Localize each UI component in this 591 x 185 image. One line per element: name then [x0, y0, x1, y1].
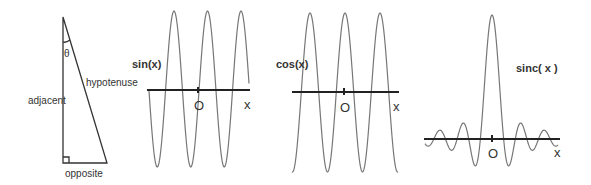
cos-origin-label: O: [340, 100, 350, 115]
cos-axis-label: x: [393, 99, 400, 114]
right-angle-marker: [63, 157, 69, 163]
right-triangle: θ hypotenuse adjacent opposite: [28, 17, 138, 179]
triangle-shape: [63, 17, 107, 163]
adjacent-label: adjacent: [28, 95, 66, 106]
sinc-plot: sinc( x ) O x: [424, 15, 561, 166]
sinc-origin-label: O: [488, 146, 498, 161]
opposite-label: opposite: [65, 168, 103, 179]
sin-axis-label: x: [244, 97, 251, 112]
trig-functions-diagram: θ hypotenuse adjacent opposite sin(x) O …: [0, 0, 591, 185]
sinc-curve: [425, 15, 558, 166]
hypotenuse-label: hypotenuse: [86, 77, 138, 88]
theta-label: θ: [64, 48, 70, 59]
cos-label: cos(x): [276, 58, 309, 70]
angle-arc: [63, 40, 70, 42]
sin-plot: sin(x) O x: [132, 11, 251, 167]
cos-plot: cos(x) O x: [276, 13, 400, 172]
sin-origin-label: O: [194, 98, 204, 113]
sinc-axis-label: x: [554, 145, 561, 160]
sinc-label: sinc( x ): [516, 62, 558, 74]
sin-label: sin(x): [132, 58, 162, 70]
